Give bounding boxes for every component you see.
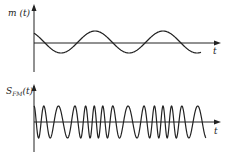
modulating-signal-curve (34, 31, 201, 53)
bottom-y-label-tail: (t) (22, 86, 33, 96)
bottom-axes (32, 84, 222, 152)
diagram-canvas (0, 0, 231, 166)
top-axes (32, 4, 222, 72)
top-x-axis-label: t (213, 46, 217, 56)
bottom-y-label-sub: FM (12, 90, 22, 97)
bottom-x-axis-label: t (214, 126, 218, 136)
bottom-y-axis-label: SFM(t) (6, 86, 33, 97)
top-y-axis-label: m (t) (8, 8, 30, 18)
